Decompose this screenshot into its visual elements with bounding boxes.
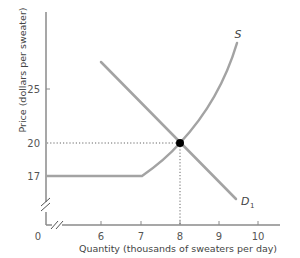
demand-label-main: D (241, 195, 249, 208)
x-tick-9: 9 (216, 231, 222, 242)
x-axis-break-icon (51, 221, 63, 229)
demand-curve-d1 (101, 62, 236, 199)
y-tick-25: 25 (27, 84, 40, 95)
demand-label-subscript: 1 (250, 202, 254, 210)
demand-label: D 1 (241, 195, 254, 210)
equilibrium-point (176, 139, 184, 147)
supply-curve-s (47, 43, 237, 176)
x-tick-10: 10 (252, 231, 265, 242)
supply-demand-chart: 6 7 8 9 10 0 25 20 17 Quantity (thousand… (0, 0, 300, 258)
supply-label: S (235, 28, 242, 41)
y-tick-labels: 25 20 17 (27, 84, 40, 182)
x-tick-6: 6 (98, 231, 104, 242)
x-tick-labels: 6 7 8 9 10 (98, 231, 265, 242)
origin-label: 0 (35, 231, 41, 242)
y-axis-title: Price (dollars per sweater) (17, 7, 28, 132)
x-tick-8: 8 (177, 231, 183, 242)
y-tick-17: 17 (27, 171, 40, 182)
y-tick-20: 20 (27, 138, 40, 149)
x-axis-title: Quantity (thousands of sweaters per day) (79, 243, 277, 254)
x-tick-7: 7 (138, 231, 144, 242)
